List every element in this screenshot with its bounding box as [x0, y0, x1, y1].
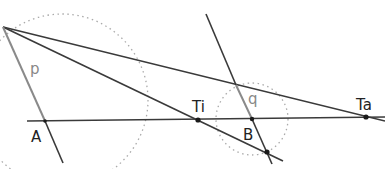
horizontal-line	[27, 117, 385, 121]
label-Ta: Ta	[355, 96, 372, 114]
point-A	[43, 119, 47, 123]
point-B	[250, 117, 254, 121]
label-p: p	[30, 60, 40, 78]
steep-line-upper	[206, 14, 236, 85]
large-dotted-circle	[0, 14, 148, 169]
label-Ti: Ti	[191, 98, 205, 116]
point-Ta	[363, 114, 368, 119]
label-q: q	[248, 90, 258, 108]
line-p-extension	[45, 121, 63, 163]
steep-line-lower	[252, 119, 272, 164]
label-A: A	[31, 128, 42, 146]
point-Ti	[195, 117, 200, 122]
geometry-diagram: p q A Ti B Ta	[0, 0, 385, 169]
point-lower-intersection	[264, 149, 269, 154]
label-B: B	[243, 126, 253, 144]
